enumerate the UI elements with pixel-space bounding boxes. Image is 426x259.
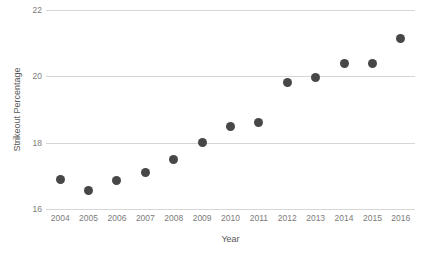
data-point[interactable] [396, 34, 405, 43]
data-point[interactable] [198, 138, 207, 147]
scatter-chart: 16182022 Strikeout Percentage 2004200520… [0, 0, 426, 259]
x-tick-label: 2007 [136, 212, 155, 224]
x-tick-label: 2012 [278, 212, 297, 224]
data-point[interactable] [311, 73, 320, 82]
gridline [46, 143, 415, 144]
data-point[interactable] [141, 168, 150, 177]
data-point[interactable] [56, 175, 65, 184]
data-point[interactable] [84, 186, 93, 195]
x-tick-label: 2016 [391, 212, 410, 224]
data-point[interactable] [169, 155, 178, 164]
x-axis-ticks: 2004200520062007200820092010201120122013… [46, 212, 415, 224]
x-tick-label: 2010 [221, 212, 240, 224]
data-point[interactable] [112, 176, 121, 185]
data-point[interactable] [226, 122, 235, 131]
x-axis-title: Year [46, 233, 415, 245]
x-tick-label: 2006 [107, 212, 126, 224]
x-tick-label: 2005 [79, 212, 98, 224]
gridline [46, 209, 415, 210]
x-tick-label: 2004 [51, 212, 70, 224]
x-tick-label: 2009 [193, 212, 212, 224]
x-tick-label: 2013 [306, 212, 325, 224]
plot-area [46, 10, 415, 209]
gridline [46, 76, 415, 77]
x-tick-label: 2014 [335, 212, 354, 224]
gridline [46, 10, 415, 11]
x-tick-label: 2011 [250, 212, 268, 224]
data-point[interactable] [283, 78, 292, 87]
data-point[interactable] [368, 59, 377, 68]
y-axis-title: Strikeout Percentage [10, 10, 24, 209]
data-point[interactable] [254, 118, 263, 127]
x-tick-label: 2008 [164, 212, 183, 224]
x-tick-label: 2015 [363, 212, 382, 224]
data-point[interactable] [340, 59, 349, 68]
